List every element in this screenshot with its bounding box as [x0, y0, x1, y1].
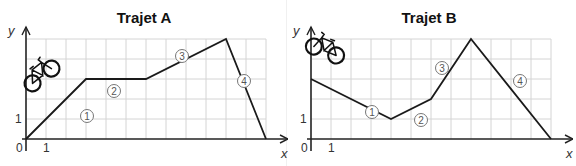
axes [22, 27, 288, 151]
grid [311, 39, 551, 139]
x-axis-label: x [565, 146, 573, 161]
y-tick-label: 1 [15, 112, 22, 126]
segment-label-2: 2 [415, 114, 428, 127]
svg-text:4: 4 [241, 76, 247, 87]
svg-text:2: 2 [418, 115, 424, 126]
svg-text:2: 2 [111, 86, 117, 97]
chart-plot: yx0111234 [285, 0, 573, 166]
svg-text:1: 1 [369, 107, 375, 118]
x-tick-label: 1 [43, 141, 50, 155]
y-axis-label: y [7, 23, 16, 38]
chart-trajet-a: Trajet A yx0111234 [0, 0, 288, 166]
segment-label-2: 2 [108, 85, 121, 98]
svg-text:3: 3 [439, 63, 445, 74]
svg-text:3: 3 [179, 51, 185, 62]
origin-label: 0 [301, 141, 308, 155]
chart-trajet-b: Trajet B yx0111234 [285, 0, 573, 166]
segment-label-1: 1 [366, 106, 379, 119]
svg-text:4: 4 [517, 76, 523, 87]
y-axis-label: y [292, 23, 301, 38]
grid [26, 39, 266, 139]
segment-label-3: 3 [176, 50, 189, 63]
bicycle-icon [16, 51, 62, 95]
svg-text:1: 1 [84, 111, 90, 122]
segment-label-3: 3 [436, 62, 449, 75]
segment-label-1: 1 [81, 110, 94, 123]
segment-label-4: 4 [514, 75, 527, 88]
chart-plot: yx0111234 [0, 0, 288, 166]
origin-label: 0 [16, 141, 23, 155]
axes [307, 27, 573, 151]
segment-label-4: 4 [238, 75, 251, 88]
y-tick-label: 1 [300, 112, 307, 126]
x-tick-label: 1 [328, 141, 335, 155]
